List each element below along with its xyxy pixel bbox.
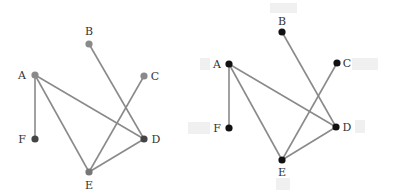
node-label: F	[213, 122, 221, 135]
node-D: D	[140, 133, 160, 146]
graph-left: ABCDEF	[17, 25, 161, 192]
node-dot	[333, 59, 340, 66]
node-B: B	[278, 15, 286, 36]
node-dot	[332, 123, 339, 130]
edge-E-D	[282, 127, 336, 160]
node-dot	[31, 71, 38, 78]
edge-C-E	[282, 63, 337, 160]
node-C: C	[333, 57, 351, 70]
node-dot	[140, 135, 147, 142]
node-dot	[140, 72, 147, 79]
edges	[35, 44, 144, 172]
node-label: F	[18, 133, 26, 146]
node-label: E	[85, 179, 93, 192]
faint-mark	[200, 58, 210, 70]
edge-A-E	[229, 64, 282, 160]
node-E: E	[278, 156, 286, 179]
faint-mark	[355, 120, 365, 133]
node-label: B	[85, 25, 93, 38]
node-label: D	[343, 121, 352, 134]
graph-diagram-svg: ABCDEF ABCDEF	[0, 0, 394, 195]
node-label: B	[278, 15, 286, 28]
node-label: A	[17, 69, 27, 82]
edge-E-D	[89, 139, 144, 172]
node-dot	[225, 60, 232, 67]
node-label: A	[212, 58, 222, 71]
node-label: C	[343, 57, 351, 70]
node-label: D	[152, 133, 161, 146]
node-label: E	[278, 166, 286, 179]
faint-mark	[276, 178, 290, 190]
node-D: D	[332, 121, 351, 134]
edge-A-D	[35, 75, 144, 139]
node-B: B	[85, 25, 93, 48]
faint-mark	[195, 122, 210, 134]
node-dot	[31, 135, 38, 142]
node-dot	[85, 40, 92, 47]
edge-A-E	[35, 75, 89, 172]
graph-right: ABCDEF	[212, 15, 352, 179]
graph-comparison-figure: ABCDEF ABCDEF	[0, 0, 394, 195]
node-dot	[278, 28, 285, 35]
faint-mark	[270, 3, 297, 13]
node-label: C	[151, 70, 159, 83]
node-dot	[85, 168, 92, 175]
edges	[229, 32, 337, 160]
faint-mark	[188, 122, 196, 134]
node-dot	[225, 124, 232, 131]
faint-mark	[352, 58, 378, 70]
node-dot	[278, 156, 285, 163]
node-E: E	[85, 168, 93, 192]
edge-A-D	[229, 64, 336, 127]
node-C: C	[140, 70, 159, 83]
